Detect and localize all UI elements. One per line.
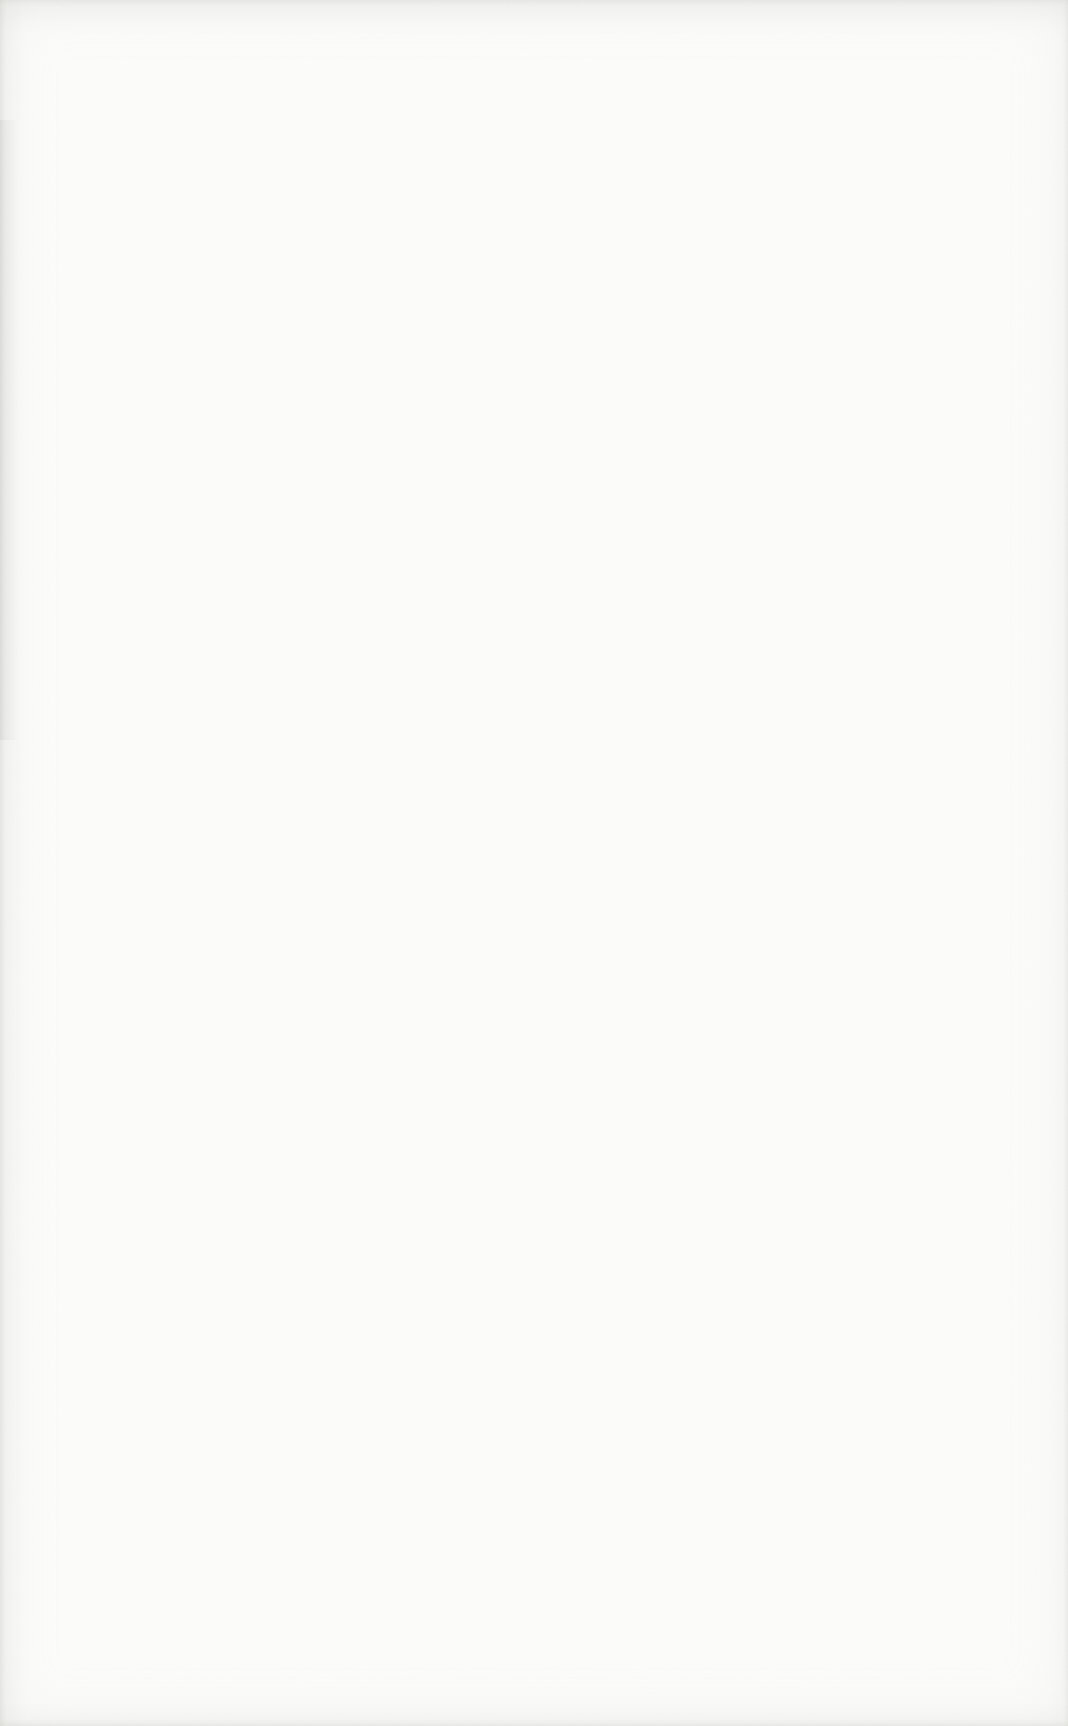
paper-grain-texture: [0, 0, 1068, 1726]
scanned-blank-page: [0, 0, 1068, 1726]
